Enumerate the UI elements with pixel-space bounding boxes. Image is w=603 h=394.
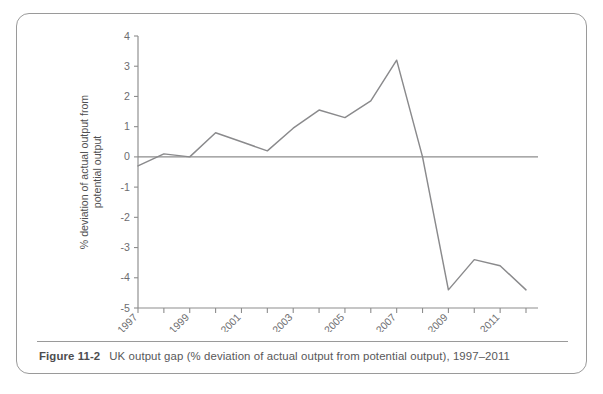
figure-caption: Figure 11-2UK output gap (% deviation of… — [39, 350, 567, 362]
y-axis-tick-label: 1 — [124, 120, 130, 132]
chart-plot-area: 43210-1-2-3-4-51997199920012003200520072… — [17, 14, 588, 332]
y-axis-tick-label: -2 — [121, 211, 131, 223]
output-gap-line-chart: 43210-1-2-3-4-51997199920012003200520072… — [17, 14, 588, 332]
y-axis-title: % deviation of actual output frompotenti… — [78, 95, 103, 249]
x-axis-tick-label: 1997 — [115, 311, 139, 332]
y-axis-tick-label: 0 — [124, 150, 130, 162]
figure-caption-text: UK output gap (% deviation of actual out… — [109, 350, 510, 362]
y-axis-tick-label: -3 — [121, 241, 131, 253]
figure-frame: 43210-1-2-3-4-51997199920012003200520072… — [16, 13, 587, 374]
y-axis-tick-label: 3 — [124, 60, 130, 72]
y-axis-tick-label: 2 — [124, 90, 130, 102]
figure-caption-label: Figure 11-2 — [39, 350, 100, 362]
y-axis-tick-label: -4 — [121, 271, 131, 283]
x-axis-tick-label: 1999 — [167, 311, 191, 332]
x-axis-tick-label: 2007 — [374, 311, 398, 332]
x-axis-tick-label: 2009 — [426, 311, 450, 332]
output-gap-data-line — [138, 60, 526, 290]
y-axis-tick-label: -1 — [121, 181, 131, 193]
x-axis-tick-label: 2001 — [219, 311, 243, 332]
x-axis-tick-label: 2003 — [270, 311, 294, 332]
x-axis-tick-label: 2005 — [322, 311, 346, 332]
caption-divider — [37, 341, 568, 342]
y-axis-title-line: potential output — [91, 136, 103, 209]
y-axis-tick-label: -5 — [121, 302, 131, 314]
x-axis-tick-label: 2011 — [478, 311, 502, 332]
y-axis-tick-label: 4 — [124, 30, 130, 42]
y-axis-title-line: % deviation of actual output from — [78, 95, 90, 249]
